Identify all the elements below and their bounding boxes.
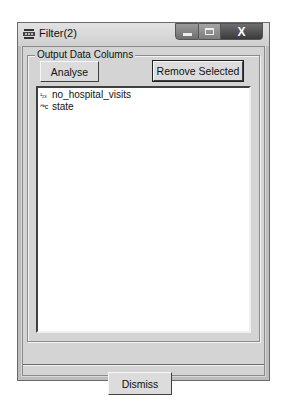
title-bar[interactable]: Filter(2) X bbox=[18, 23, 269, 46]
close-button[interactable]: X bbox=[221, 23, 263, 40]
maximize-icon bbox=[205, 28, 214, 35]
close-icon: X bbox=[237, 25, 245, 39]
column-name: state bbox=[52, 101, 74, 112]
filter-window: Filter(2) X Output Data Columns Analyse … bbox=[17, 22, 270, 381]
group-label: Output Data Columns bbox=[35, 49, 135, 60]
column-name: no_hospital_visits bbox=[52, 89, 131, 100]
maximize-button[interactable] bbox=[199, 23, 221, 40]
output-data-columns-group: Output Data Columns Analyse Remove Selec… bbox=[27, 55, 260, 342]
minimize-icon bbox=[183, 33, 192, 36]
dismiss-button[interactable]: Dismiss bbox=[108, 372, 172, 395]
footer-separator bbox=[23, 364, 264, 366]
string-type-icon: ᴬᵇc bbox=[40, 103, 52, 110]
columns-listbox[interactable]: ¹₂₃ no_hospital_visits ᴬᵇc state bbox=[36, 86, 251, 333]
analyse-button[interactable]: Analyse bbox=[40, 61, 99, 82]
integer-type-icon: ¹₂₃ bbox=[40, 91, 52, 98]
remove-selected-button[interactable]: Remove Selected bbox=[153, 61, 243, 81]
dialog-client-area: Output Data Columns Analyse Remove Selec… bbox=[22, 46, 265, 376]
minimize-button[interactable] bbox=[175, 23, 199, 40]
filter-app-icon bbox=[23, 28, 35, 40]
window-title: Filter(2) bbox=[39, 27, 77, 39]
list-item[interactable]: ¹₂₃ no_hospital_visits bbox=[38, 88, 249, 100]
window-controls: X bbox=[175, 23, 263, 40]
list-item[interactable]: ᴬᵇc state bbox=[38, 100, 249, 112]
